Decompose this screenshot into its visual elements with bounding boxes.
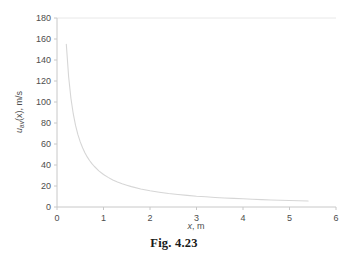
y-tick-label: 100 xyxy=(36,97,51,107)
chart-plot-area: 020406080100120140160180 0123456 uav(x),… xyxy=(0,0,348,232)
x-tick-label: 4 xyxy=(240,213,245,223)
y-tick-label: 0 xyxy=(46,202,51,212)
y-tick-label: 120 xyxy=(36,76,51,86)
svg-text:uav(x), m/s: uav(x), m/s xyxy=(14,91,25,133)
svg-text:x, m: x, m xyxy=(187,221,205,231)
y-tick-label: 40 xyxy=(41,160,51,170)
x-tick-label: 1 xyxy=(101,213,106,223)
y-tick-label: 180 xyxy=(36,13,51,23)
x-tick-label: 5 xyxy=(287,213,292,223)
x-tick-label: 2 xyxy=(147,213,152,223)
y-tick-label: 140 xyxy=(36,55,51,65)
x-tick-label: 0 xyxy=(54,213,59,223)
x-tick-label: 6 xyxy=(333,213,338,223)
y-axis-title: uav(x), m/s xyxy=(14,91,25,133)
x-axis-title: x, m xyxy=(187,221,205,231)
y-tick-label: 160 xyxy=(36,34,51,44)
figure-container: 020406080100120140160180 0123456 uav(x),… xyxy=(0,0,348,259)
figure-caption: Fig. 4.23 xyxy=(0,236,348,251)
y-axis-tick-labels: 020406080100120140160180 xyxy=(36,13,51,212)
line-chart: 020406080100120140160180 0123456 uav(x),… xyxy=(0,0,348,232)
data-series-line xyxy=(66,44,308,201)
y-tick-label: 60 xyxy=(41,139,51,149)
y-tick-label: 80 xyxy=(41,118,51,128)
y-tick-label: 20 xyxy=(41,181,51,191)
